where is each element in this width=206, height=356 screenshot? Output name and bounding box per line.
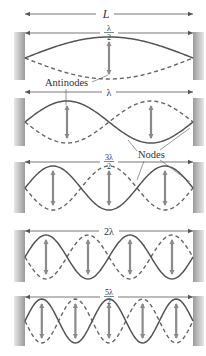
wavelength-label: λ [107, 87, 112, 98]
right-wall [193, 296, 204, 346]
length-label: L [102, 7, 110, 21]
nodes-pointer-1 [128, 140, 137, 151]
wave-solid [25, 101, 193, 143]
right-wall [193, 32, 204, 80]
wave-solid [25, 235, 193, 279]
nodes-label: Nodes [138, 149, 165, 160]
right-wall [193, 98, 204, 146]
wavelength-label: 2λ [104, 226, 114, 237]
right-wall [193, 230, 204, 282]
mode-panel-n2: λ [14, 87, 204, 147]
left-wall [14, 230, 25, 282]
antinodes-label: Antinodes [45, 77, 88, 88]
length-dimension: L [25, 7, 193, 21]
left-wall [14, 296, 25, 346]
mode-panels: λ2λ3λ22λ5λ2 [14, 24, 204, 346]
left-wall [14, 162, 25, 213]
mode-panel-n3: 3λ2 [14, 153, 204, 213]
mode-panel-n1: λ2 [14, 24, 204, 80]
standing-waves-diagram: L λ2λ3λ22λ5λ2 Antinodes Nodes [0, 0, 206, 356]
antinodes-callout: Antinodes [45, 75, 108, 105]
mode-panel-n5: 5λ2 [14, 288, 204, 346]
mode-panel-n4: 2λ [14, 226, 204, 283]
wavelength-label-numerator: λ [107, 24, 111, 33]
left-wall [14, 98, 25, 146]
nodes-pointer-4 [137, 161, 144, 180]
right-wall [193, 162, 204, 213]
wavelength-label-numerator: 3λ [105, 153, 113, 162]
left-wall [14, 32, 25, 80]
wavelength-label-numerator: 5λ [105, 288, 113, 297]
nodes-pointer-2 [160, 128, 190, 150]
